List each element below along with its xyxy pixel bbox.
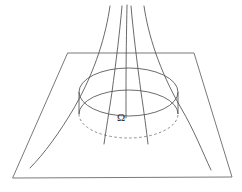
disk-hidden-back-arc: [79, 114, 178, 138]
figure-container: Ω: [0, 0, 242, 192]
omega-region-label: Ω: [117, 112, 125, 123]
field-line-3: [126, 5, 127, 118]
field-line-1: [30, 6, 110, 168]
field-line-4: [131, 6, 148, 144]
omega-disk-top-ellipse: [79, 68, 178, 116]
field-line-2: [104, 6, 122, 144]
disk-bottom-front-arc: [79, 90, 178, 114]
diagram-canvas: [0, 0, 242, 192]
